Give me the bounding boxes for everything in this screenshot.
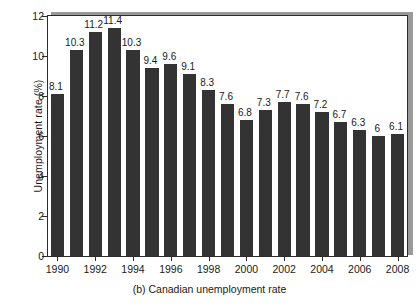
y-tick-label: 8	[38, 90, 44, 102]
y-tick-label: 2	[38, 210, 44, 222]
bar	[259, 110, 272, 256]
y-tick-label: 6	[38, 130, 44, 142]
bar	[391, 134, 404, 256]
x-tick-mark	[171, 256, 172, 261]
bar-value-label: 6.1	[389, 121, 403, 132]
bar-value-label: 7.7	[276, 89, 290, 100]
bar-value-label: 8.3	[200, 77, 214, 88]
bar	[51, 94, 64, 256]
y-tick-label: 0	[38, 250, 44, 262]
bar	[145, 68, 158, 256]
bar-value-label: 9.4	[143, 55, 157, 66]
x-tick-mark	[360, 256, 361, 261]
bar-value-label: 6.3	[351, 117, 365, 128]
figure-caption: (b) Canadian unemployment rate	[0, 283, 419, 295]
bar	[240, 120, 253, 256]
bar	[278, 102, 291, 256]
bar	[202, 90, 215, 256]
x-tick-label: 1996	[159, 263, 182, 275]
x-tick-mark	[57, 256, 58, 261]
bar-value-label: 7.2	[314, 99, 328, 110]
x-tick-label: 1990	[46, 263, 69, 275]
bar	[89, 32, 102, 256]
bar-value-label: 9.1	[181, 61, 195, 72]
bar-value-label: 6.7	[332, 109, 346, 120]
bar	[108, 28, 121, 256]
bar	[126, 50, 139, 256]
x-tick-mark	[322, 256, 323, 261]
bar-value-label: 11.4	[103, 15, 122, 26]
bar-value-label: 11.2	[84, 19, 103, 30]
bar-value-label: 6.8	[238, 107, 252, 118]
bar	[372, 136, 385, 256]
bar-value-label: 7.3	[257, 97, 271, 108]
bar-value-label: 10.3	[122, 37, 141, 48]
x-tick-label: 2004	[310, 263, 333, 275]
bar-value-label: 10.3	[65, 37, 84, 48]
bar	[164, 64, 177, 256]
bar-value-label: 7.6	[295, 91, 309, 102]
x-tick-label: 1992	[84, 263, 107, 275]
y-tick-label: 12	[32, 10, 44, 22]
x-tick-mark	[133, 256, 134, 261]
bar	[183, 74, 196, 256]
x-tick-label: 2002	[272, 263, 295, 275]
x-tick-mark	[95, 256, 96, 261]
unemployment-bar-chart-figure: Unemployment rate (%) 024681012 19901992…	[0, 0, 419, 307]
x-tick-mark	[284, 256, 285, 261]
bar-value-label: 7.6	[219, 91, 233, 102]
y-tick-label: 4	[38, 170, 44, 182]
plot-area: 024681012 199019921994199619982000200220…	[48, 16, 407, 256]
bar	[315, 112, 328, 256]
x-tick-mark	[209, 256, 210, 261]
x-tick-label: 2006	[348, 263, 371, 275]
bar-value-label: 8.1	[49, 81, 63, 92]
x-tick-label: 1994	[121, 263, 144, 275]
y-tick-label: 10	[32, 50, 44, 62]
bar-value-label: 9.6	[162, 51, 176, 62]
bar	[296, 104, 309, 256]
bar	[221, 104, 234, 256]
bar	[353, 130, 366, 256]
bar	[70, 50, 83, 256]
x-tick-label: 2000	[235, 263, 258, 275]
bar	[334, 122, 347, 256]
bar-value-label: 6	[374, 123, 380, 134]
x-tick-mark	[246, 256, 247, 261]
x-tick-mark	[398, 256, 399, 261]
x-tick-label: 1998	[197, 263, 220, 275]
x-tick-label: 2008	[386, 263, 409, 275]
